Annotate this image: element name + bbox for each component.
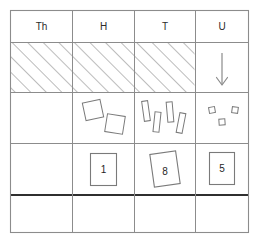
answer-cell-tens[interactable] xyxy=(135,196,195,232)
rod-block xyxy=(166,102,174,122)
hatched-band xyxy=(11,43,195,93)
digit-value-units: 5 xyxy=(219,163,225,174)
flat-square-block xyxy=(82,99,103,120)
digit-box-hundreds[interactable]: 1 xyxy=(91,154,117,186)
flat-square-block xyxy=(105,114,126,135)
rod-block xyxy=(142,101,151,122)
blocks-units xyxy=(209,107,239,126)
blocks-tens xyxy=(142,101,186,134)
unit-cube-block xyxy=(232,107,239,114)
column-header-hundreds: H xyxy=(100,21,107,32)
column-header-units: U xyxy=(218,21,225,32)
rod-block xyxy=(176,113,186,134)
column-headers: Th H T U xyxy=(36,21,226,32)
answer-cell-thousands[interactable] xyxy=(11,196,72,232)
digit-box-tens[interactable]: 8 xyxy=(150,151,180,187)
down-arrow-icon xyxy=(217,53,228,85)
hatched-cell-thousands-hundreds-tens xyxy=(11,43,195,93)
place-value-chart-canvas: 1 8 5 Th H T U xyxy=(0,0,259,243)
unit-cube-block xyxy=(209,107,216,114)
digit-value-hundreds: 1 xyxy=(101,164,107,175)
answer-cell-units[interactable] xyxy=(196,196,248,232)
answer-cell-hundreds[interactable] xyxy=(73,196,134,232)
digit-box-units[interactable]: 5 xyxy=(210,153,235,185)
column-header-tens: T xyxy=(162,21,168,32)
place-value-chart: 1 8 5 Th H T U xyxy=(0,0,259,243)
rod-block xyxy=(153,112,161,133)
answer-row xyxy=(11,196,248,232)
digit-value-tens: 8 xyxy=(162,166,168,177)
unit-cube-block xyxy=(219,119,225,125)
blocks-hundreds xyxy=(82,99,125,134)
column-header-thousands: Th xyxy=(36,21,48,32)
